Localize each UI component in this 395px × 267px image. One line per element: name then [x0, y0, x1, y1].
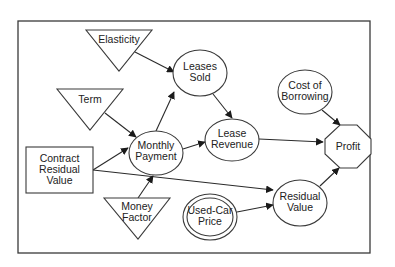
edge-monthly-payment-to-lease-revenue	[183, 142, 205, 149]
node-label-line-2: Sold	[189, 71, 210, 83]
edge-monthly-payment-to-leases-sold	[156, 92, 174, 131]
node-money-factor: Money Factor	[104, 198, 170, 239]
node-profit: Profit	[325, 125, 371, 168]
node-elasticity: Elasticity	[86, 30, 152, 71]
node-label-line-2: Borrowing	[281, 90, 328, 102]
influence-diagram: Elasticity Term Contract Residual Value …	[0, 0, 395, 267]
edge-elasticity-to-leases-sold	[135, 52, 174, 72]
node-label: Term	[78, 93, 102, 105]
node-label-line-2: Price	[198, 215, 222, 227]
edge-leases-sold-to-lease-revenue	[213, 94, 232, 118]
node-label-line-3: Value	[46, 174, 72, 186]
edge-contract-residual-to-monthly-payment	[93, 148, 128, 170]
edge-cost-of-borrowing-to-profit	[322, 110, 340, 125]
edge-lease-revenue-to-profit	[259, 139, 323, 142]
node-cost-of-borrowing: Cost of Borrowing	[278, 70, 332, 114]
edge-residual-value-to-profit	[320, 168, 339, 186]
node-label-line-2: Factor	[122, 211, 152, 223]
edge-contract-residual-to-residual-value	[93, 170, 273, 190]
node-term: Term	[57, 89, 123, 130]
edge-term-to-monthly-payment	[105, 113, 136, 137]
node-label: Profit	[336, 140, 361, 152]
node-monthly-payment: Monthly Payment	[129, 131, 183, 175]
node-used-car-price: Used-Car Price	[183, 194, 237, 240]
node-label: Elasticity	[98, 33, 140, 45]
node-leases-sold: Leases Sold	[173, 50, 227, 96]
edge-money-factor-to-monthly-payment	[138, 176, 153, 198]
node-label-line-2: Revenue	[211, 138, 253, 150]
edge-used-car-price-to-residual-value	[237, 205, 273, 212]
node-residual-value: Residual Value	[273, 180, 327, 226]
node-label-line-2: Payment	[135, 150, 177, 162]
node-lease-revenue: Lease Revenue	[205, 119, 259, 161]
node-label-line-2: Value	[287, 201, 313, 213]
node-contract-residual-value: Contract Residual Value	[26, 147, 93, 193]
